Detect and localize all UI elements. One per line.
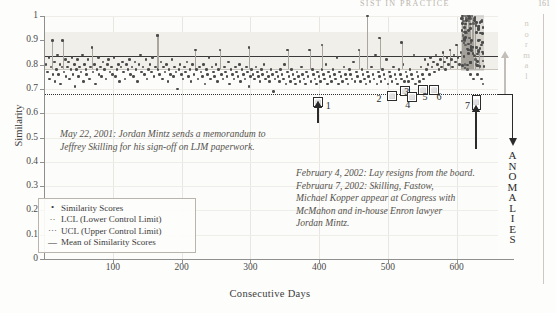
vertical-letter: r — [520, 39, 533, 50]
data-point — [48, 56, 51, 59]
y-tick-mark — [40, 138, 45, 139]
data-point — [176, 88, 179, 91]
data-point — [299, 80, 302, 83]
data-point — [235, 71, 238, 74]
data-point — [467, 29, 470, 32]
data-point — [355, 71, 358, 74]
data-point — [52, 73, 55, 76]
upper-shaded-band — [44, 32, 498, 70]
data-point — [184, 71, 187, 74]
spike-stem — [220, 50, 221, 69]
data-point — [76, 58, 79, 61]
data-point — [187, 75, 190, 78]
legend-item: —Mean of Similarity Scores — [44, 237, 190, 249]
data-point — [354, 80, 357, 83]
data-point — [136, 80, 139, 83]
y-tick-label: 0.1 — [4, 230, 38, 240]
data-point — [301, 73, 304, 76]
data-point — [409, 68, 412, 71]
data-point — [238, 63, 241, 66]
data-point — [250, 68, 253, 71]
gridline-horizontal — [44, 113, 498, 114]
running-head: 161 SIST IN PRACTICE — [360, 0, 550, 11]
data-point — [374, 54, 377, 57]
data-point — [118, 80, 121, 83]
data-point — [268, 80, 271, 83]
data-point — [85, 68, 88, 71]
data-point — [333, 73, 336, 76]
spike-stem — [322, 45, 323, 69]
spike-stem — [92, 48, 93, 70]
data-point — [336, 56, 339, 59]
running-head-title: SIST IN PRACTICE — [360, 0, 450, 8]
data-point — [383, 73, 386, 76]
data-point — [470, 49, 473, 52]
data-point — [261, 73, 264, 76]
data-point — [167, 80, 170, 83]
vertical-letter: A — [506, 192, 519, 203]
data-point — [341, 80, 344, 83]
data-point — [319, 80, 322, 83]
data-point — [272, 90, 275, 93]
data-point — [107, 58, 110, 61]
x-tick-label: 400 — [299, 263, 339, 273]
page-number: 161 — [538, 0, 550, 8]
data-point — [195, 68, 198, 71]
data-point — [201, 75, 204, 78]
data-point — [116, 68, 119, 71]
data-point — [439, 58, 442, 61]
data-point — [477, 27, 480, 30]
annotation-mintz-memo: May 22, 2001: Jordan Mintz sends a memor… — [60, 128, 310, 153]
data-point — [83, 63, 86, 66]
legend-item: •Similarity Scores — [44, 202, 190, 214]
data-point — [150, 71, 153, 74]
data-point — [330, 80, 333, 83]
anomalies-label: ANOMALIES — [506, 150, 519, 245]
event-number-label: 7 — [465, 101, 470, 111]
normal-label: normal — [520, 18, 533, 81]
y-tick-label: 1 — [4, 11, 38, 21]
data-point — [475, 21, 478, 24]
bracket-connector — [498, 94, 512, 95]
data-point — [450, 58, 453, 61]
data-point — [461, 22, 464, 25]
data-point — [220, 73, 223, 76]
spike-stem — [367, 16, 368, 69]
vertical-letter: o — [520, 29, 533, 40]
x-tick-mark — [182, 259, 183, 263]
data-point — [442, 51, 445, 54]
data-point — [139, 54, 142, 57]
data-point — [385, 58, 388, 61]
normal-direction-arrow — [504, 57, 506, 93]
data-point — [410, 73, 413, 76]
spike-stem — [359, 50, 360, 69]
data-point — [463, 26, 466, 29]
event-icon-box[interactable]: ⬜ — [387, 91, 397, 101]
x-tick-mark — [388, 259, 389, 263]
y-tick-mark — [40, 65, 45, 66]
data-point — [151, 56, 154, 59]
spike-stem — [288, 50, 289, 69]
lcl-line — [44, 94, 512, 95]
legend-key-icon: • — [44, 203, 61, 212]
data-point — [300, 66, 303, 69]
legend-key-icon: ··· — [44, 226, 61, 235]
data-point — [249, 75, 252, 78]
data-point — [128, 58, 131, 61]
x-axis-label: Consecutive Days — [140, 288, 400, 299]
y-tick-mark — [40, 186, 45, 187]
data-point — [61, 39, 64, 42]
data-point — [75, 68, 78, 71]
y-tick-label: 0 — [4, 254, 38, 264]
data-point — [206, 73, 209, 76]
data-point — [469, 73, 472, 76]
data-point — [482, 26, 485, 29]
x-tick-label: 500 — [368, 263, 408, 273]
data-point — [189, 68, 192, 71]
data-point — [359, 80, 362, 83]
spike-stem — [402, 43, 403, 70]
data-point — [114, 75, 117, 78]
data-point — [193, 73, 196, 76]
event-pointer-arrow — [475, 111, 477, 149]
data-point — [132, 75, 135, 78]
